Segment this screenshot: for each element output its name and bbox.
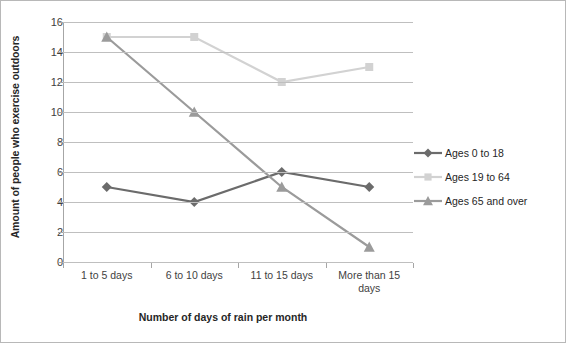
y-axis-title-text: Amount of people who exercise outdoors: [9, 36, 21, 239]
gridline: [63, 232, 413, 233]
square-marker: [424, 173, 431, 180]
legend: Ages 0 to 18Ages 19 to 64Ages 65 and ove…: [413, 141, 565, 213]
y-axis-tick-mark: [58, 52, 63, 53]
legend-label: Ages 65 and over: [443, 195, 527, 207]
legend-label: Ages 19 to 64: [443, 171, 510, 183]
gridline: [63, 22, 413, 23]
diamond-marker: [364, 182, 374, 192]
x-axis-title: Number of days of rain per month: [33, 311, 413, 323]
gridline: [63, 52, 413, 53]
gridline: [63, 202, 413, 203]
legend-marker-triangle-icon: [413, 194, 443, 208]
x-axis-tick-mark: [413, 263, 414, 268]
diamond-marker: [424, 149, 433, 158]
series-1: [102, 167, 375, 207]
x-axis-tick-label: 1 to 5 days: [63, 269, 151, 309]
y-axis-tick-mark: [58, 22, 63, 23]
x-axis-tick-labels: 1 to 5 days6 to 10 days11 to 15 daysMore…: [63, 269, 413, 309]
gridline: [63, 142, 413, 143]
legend-item-2[interactable]: Ages 19 to 64: [413, 165, 565, 189]
plot-area: [63, 22, 413, 262]
square-marker: [365, 63, 373, 71]
gridline: [63, 112, 413, 113]
diamond-marker: [102, 182, 112, 192]
series-2: [103, 33, 374, 86]
chart-figure: Amount of people who exercise outdoors 0…: [0, 0, 566, 343]
y-axis-tick-mark: [58, 112, 63, 113]
y-axis-title: Amount of people who exercise outdoors: [1, 1, 29, 273]
gridline: [63, 82, 413, 83]
series-line: [107, 172, 370, 202]
x-axis-tick-mark: [238, 263, 239, 268]
x-axis-tick-mark: [63, 263, 64, 268]
y-axis-tick-mark: [58, 82, 63, 83]
y-axis-tick-mark: [58, 202, 63, 203]
legend-item-3[interactable]: Ages 65 and over: [413, 189, 565, 213]
x-axis-tick-label: More than 15 days: [326, 269, 414, 309]
legend-marker-square-icon: [413, 170, 443, 184]
x-axis-tick-mark: [326, 263, 327, 268]
x-axis-tick-label: 6 to 10 days: [151, 269, 239, 309]
x-axis-tick-mark: [151, 263, 152, 268]
y-axis-tick-mark: [58, 172, 63, 173]
y-axis-tick-mark: [58, 232, 63, 233]
legend-label: Ages 0 to 18: [443, 147, 504, 159]
y-axis-tick-mark: [58, 142, 63, 143]
x-axis-tick-label: 11 to 15 days: [238, 269, 326, 309]
legend-item-1[interactable]: Ages 0 to 18: [413, 141, 565, 165]
legend-marker-diamond-icon: [413, 146, 443, 160]
series-line: [107, 37, 370, 82]
gridline: [63, 172, 413, 173]
square-marker: [190, 33, 198, 41]
